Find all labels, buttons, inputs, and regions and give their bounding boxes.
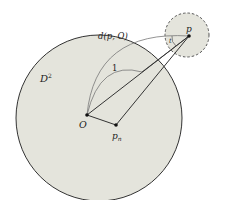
point-pn xyxy=(114,123,118,127)
label-origin: O xyxy=(79,119,87,130)
label-t: t xyxy=(169,37,172,45)
neighborhood-circle xyxy=(165,13,209,57)
point-O xyxy=(85,113,89,117)
label-p: p xyxy=(186,24,192,34)
label-distance: d(p, O) xyxy=(98,31,128,41)
label-unit: 1 xyxy=(112,63,117,73)
point-p xyxy=(187,34,191,38)
unit-disk xyxy=(16,35,182,200)
diagram-canvas: D2 d(p, O) 1 O pn p t xyxy=(0,0,225,200)
